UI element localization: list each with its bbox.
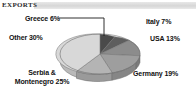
pie-label-serbia-montenegro: Serbia & Montenegro 25% xyxy=(4,69,80,86)
pie-label-serbia-line2: Montenegro 25% xyxy=(15,78,70,85)
header-band xyxy=(34,2,196,9)
pie-label-other: Other 30% xyxy=(9,34,43,43)
pie-label-serbia-line1: Serbia & xyxy=(28,69,56,76)
exports-pie-chart-figure: EXPORTS xyxy=(0,0,196,99)
pie-label-greece: Greece 6% xyxy=(25,15,60,24)
pie-label-italy: Italy 7% xyxy=(146,18,171,27)
page-title: EXPORTS xyxy=(2,1,37,10)
greece-leader-line xyxy=(58,18,104,36)
figure-header: EXPORTS xyxy=(0,0,196,12)
chart-area: Greece 6% Italy 7% USA 13% Germany 19% S… xyxy=(0,12,196,99)
pie-label-germany: Germany 19% xyxy=(133,70,178,79)
pie-label-usa: USA 13% xyxy=(150,35,180,44)
